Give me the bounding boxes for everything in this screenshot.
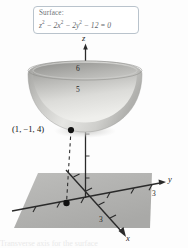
y-tick-3: 3 [152, 189, 156, 198]
x-tick-3: 3 [99, 215, 103, 224]
surface-figure: Surface: z2 − 2x2 − 2y2 − 12 = 0 [0, 0, 188, 248]
bottom-text-fragment: Transverse axis for the surface [0, 239, 188, 248]
point-label: (1, −1, 4) [12, 124, 44, 134]
xy-plane [14, 173, 152, 228]
point-projection [63, 200, 69, 206]
z-tick-6: 6 [76, 64, 80, 73]
point-on-surface [68, 127, 74, 133]
z-axis-label: z [82, 33, 85, 43]
y-axis-label: y [168, 174, 172, 184]
paraboloid-surface [28, 61, 142, 132]
z-tick-5: 5 [76, 85, 80, 94]
